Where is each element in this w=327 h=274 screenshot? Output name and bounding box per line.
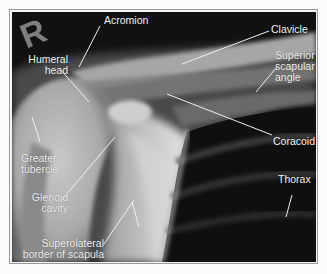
label-gt-line2: tubercle [21, 164, 58, 175]
label-clavicle: Clavicle [271, 24, 308, 35]
label-ssa-line3: angle [275, 72, 315, 83]
label-thorax: Thorax [278, 174, 311, 185]
shoulder-xray-image: R Acromion Humeral head Clavicle Superio… [12, 12, 316, 262]
label-coracoid: Coracoid [273, 136, 315, 147]
label-superolateral-border: Superolateral border of scapula [20, 238, 104, 260]
label-gc-line2: cavity [20, 203, 68, 214]
label-sb-line2: border of scapula [20, 249, 104, 260]
label-acromion: Acromion [104, 15, 148, 26]
label-superior-scapular-angle: Superior scapular angle [275, 50, 315, 83]
label-glenoid-cavity: Glenoid cavity [20, 192, 68, 214]
label-greater-tubercle: Greater tubercle [21, 153, 58, 175]
label-humeral-head: Humeral head [18, 54, 68, 76]
xray-graphic [12, 12, 316, 262]
label-humeral-head-line2: head [18, 65, 68, 76]
